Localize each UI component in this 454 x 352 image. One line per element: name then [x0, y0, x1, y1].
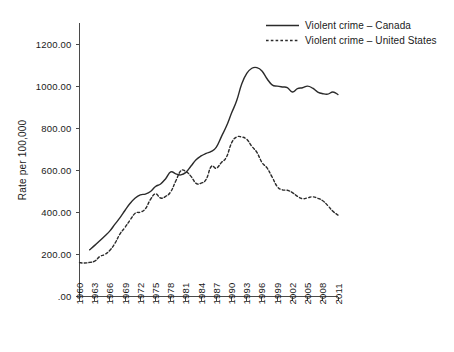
y-tick-group: 1200.001000.00800.00600.00400.00200.00.0… — [36, 39, 80, 302]
x-tick-label: 1993 — [241, 283, 252, 305]
y-tick-label: 400.00 — [41, 207, 71, 218]
x-tick-label: 1990 — [226, 283, 237, 305]
y-tick-label: 1200.00 — [36, 39, 72, 50]
y-axis: 1200.001000.00800.00600.00400.00200.00.0… — [17, 23, 80, 302]
x-axis: 1960196319661969197219751978198119841987… — [74, 283, 344, 305]
x-tick-label: 1969 — [120, 283, 131, 305]
x-tick-label: 1972 — [135, 283, 146, 305]
series-line-united-states — [80, 136, 339, 263]
legend: Violent crime – Canada Violent crime – U… — [266, 20, 437, 46]
x-tick-label: 1978 — [165, 283, 176, 305]
y-tick-label: .00 — [58, 291, 72, 302]
x-tick-label: 1999 — [272, 283, 283, 305]
y-tick-label: 200.00 — [41, 249, 71, 260]
violent-crime-line-chart: Violent crime – Canada Violent crime – U… — [0, 0, 454, 352]
x-tick-label: 1987 — [211, 283, 222, 305]
legend-label-united-states: Violent crime – United States — [305, 35, 437, 46]
x-tick-group: 1960196319661969197219751978198119841987… — [74, 283, 344, 305]
chart-canvas: Violent crime – Canada Violent crime – U… — [0, 0, 454, 352]
x-tick-label: 1963 — [89, 283, 100, 305]
series-line-canada — [90, 67, 338, 250]
x-tick-label: 2005 — [302, 283, 313, 305]
x-tick-label: 1981 — [180, 283, 191, 305]
y-axis-title: Rate per 100,000 — [17, 120, 28, 201]
x-tick-label: 2002 — [287, 283, 298, 305]
x-tick-label: 1975 — [150, 283, 161, 305]
legend-label-canada: Violent crime – Canada — [305, 20, 411, 31]
x-tick-label: 2008 — [317, 283, 328, 305]
x-tick-label: 1984 — [196, 283, 207, 305]
x-tick-label: 1960 — [74, 283, 85, 305]
y-tick-label: 800.00 — [41, 123, 71, 134]
x-tick-label: 1966 — [104, 283, 115, 305]
x-tick-label: 2011 — [333, 283, 344, 304]
y-tick-label: 1000.00 — [36, 81, 72, 92]
x-tick-label: 1996 — [256, 283, 267, 305]
plot-series — [80, 67, 339, 263]
y-tick-label: 600.00 — [41, 165, 71, 176]
